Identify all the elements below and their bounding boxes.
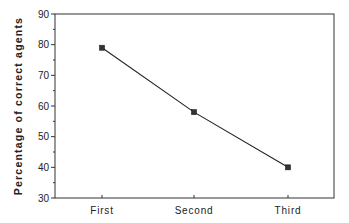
y-axis: 30405060708090 xyxy=(38,9,55,204)
square-marker-icon xyxy=(100,45,105,50)
square-marker-icon xyxy=(192,110,197,115)
y-tick-label: 30 xyxy=(38,193,50,204)
y-tick-label: 60 xyxy=(38,101,50,112)
chart-canvas: Percentage of correct agents 30405060708… xyxy=(0,0,349,223)
y-tick-label: 40 xyxy=(38,162,50,173)
x-tick-label: Second xyxy=(175,205,214,216)
plot-frame xyxy=(55,14,334,198)
y-axis-title: Percentage of correct agents xyxy=(12,17,24,195)
y-tick-label: 80 xyxy=(38,39,50,50)
x-tick-label: First xyxy=(90,205,113,216)
series-polyline xyxy=(102,48,288,168)
square-marker-icon xyxy=(286,165,291,170)
line-chart: Percentage of correct agents 30405060708… xyxy=(0,0,349,223)
y-tick-label: 70 xyxy=(38,70,50,81)
y-tick-label: 50 xyxy=(38,131,50,142)
x-tick-label: Third xyxy=(275,205,302,216)
y-tick-label: 90 xyxy=(38,9,50,20)
series-line xyxy=(100,45,291,170)
